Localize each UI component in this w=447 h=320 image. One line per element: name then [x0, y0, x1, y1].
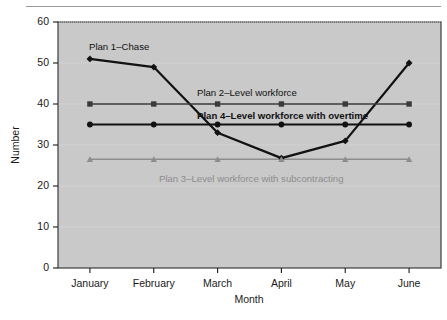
chart-figure: 0102030405060 JanuaryFebruaryMarchAprilM… — [0, 0, 447, 320]
data-point-marker — [279, 101, 284, 106]
data-point-marker — [87, 101, 92, 106]
y-axis-tick-label: 0 — [43, 261, 49, 273]
series-inline-label: Plan 4–Level workforce with overtime — [197, 110, 368, 121]
data-point-marker — [342, 122, 348, 128]
x-axis-tick-label: March — [203, 277, 232, 289]
data-point-marker — [87, 122, 93, 128]
data-point-marker — [279, 122, 285, 128]
x-axis-tick-label: January — [71, 277, 109, 289]
data-point-marker — [151, 122, 157, 128]
x-axis-tick-label: February — [133, 277, 176, 289]
data-point-marker — [215, 101, 220, 106]
y-axis-title: Number — [9, 126, 21, 164]
series-inline-label: Plan 2–Level workforce — [197, 87, 297, 98]
y-axis-tick-label: 30 — [37, 138, 49, 150]
x-axis-title: Month — [234, 293, 263, 305]
x-axis-ticks — [90, 268, 409, 273]
data-point-marker — [151, 101, 156, 106]
data-point-marker — [406, 122, 412, 128]
line-chart-svg: 0102030405060 JanuaryFebruaryMarchAprilM… — [0, 0, 447, 320]
x-axis-tick-label: June — [398, 277, 421, 289]
data-point-marker — [215, 122, 221, 128]
series-inline-label: Plan 3–Level workforce with subcontracti… — [159, 173, 344, 184]
series-inline-label: Plan 1–Chase — [89, 41, 149, 52]
y-axis-tick-label: 20 — [37, 179, 49, 191]
y-axis-tick-label: 50 — [37, 56, 49, 68]
data-point-marker — [343, 101, 348, 106]
x-axis-tick-labels: JanuaryFebruaryMarchAprilMayJune — [71, 277, 420, 289]
data-point-marker — [406, 101, 411, 106]
x-axis-tick-label: April — [271, 277, 292, 289]
y-axis-tick-labels: 0102030405060 — [37, 15, 49, 273]
y-axis-tick-label: 60 — [37, 15, 49, 27]
top-divider-rule — [26, 6, 441, 7]
y-axis-tick-label: 10 — [37, 220, 49, 232]
y-axis-tick-label: 40 — [37, 97, 49, 109]
x-axis-tick-label: May — [335, 277, 356, 289]
y-axis-ticks — [53, 22, 58, 268]
